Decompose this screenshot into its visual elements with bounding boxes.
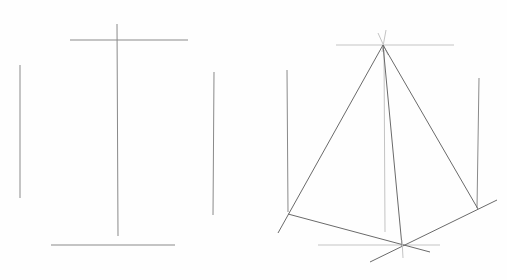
right-center-vertical bbox=[384, 50, 385, 232]
sketch-drawing bbox=[0, 0, 507, 280]
pyramid-center-edge bbox=[383, 45, 402, 246]
pyramid-base-left bbox=[288, 214, 430, 252]
right-left-vertical bbox=[287, 70, 288, 212]
pyramid-bottom-tick bbox=[402, 240, 403, 258]
pyramid-base-right bbox=[370, 200, 497, 262]
right-right-vertical bbox=[477, 78, 479, 208]
left-right-vertical bbox=[213, 72, 214, 215]
pyramid-left-edge bbox=[278, 45, 383, 233]
pyramid-right-edge bbox=[383, 45, 478, 209]
sketch-canvas bbox=[0, 0, 507, 280]
left-center-vertical bbox=[117, 24, 118, 236]
